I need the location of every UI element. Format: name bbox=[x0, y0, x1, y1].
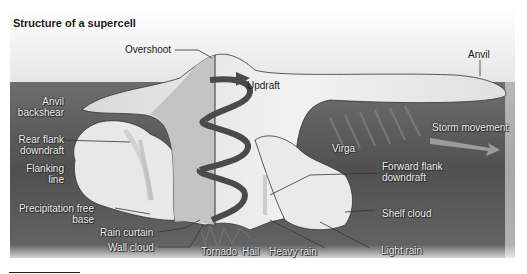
label-anvil: Anvil bbox=[468, 49, 490, 60]
label-storm-movement: Storm movement bbox=[432, 122, 508, 133]
label-shelf-cloud: Shelf cloud bbox=[382, 208, 431, 219]
label-light-rain: Light rain bbox=[381, 245, 422, 256]
label-wall-cloud: Wall cloud bbox=[108, 242, 154, 253]
label-virga: Virga bbox=[332, 143, 355, 154]
label-rear-flank-downdraft: Rear flank downdraft bbox=[10, 134, 64, 156]
label-updraft: Updraft bbox=[247, 80, 280, 91]
diagram-title: Structure of a supercell bbox=[13, 17, 136, 29]
label-flanking-line: Flanking line bbox=[10, 163, 64, 185]
label-forward-flank-downdraft: Forward flank downdraft bbox=[382, 161, 443, 183]
label-tornado: Tornado bbox=[201, 246, 237, 257]
label-heavy-rain: Heavy rain bbox=[269, 246, 317, 257]
diagram-artwork bbox=[0, 0, 527, 274]
label-overshoot: Overshoot bbox=[125, 44, 171, 55]
supercell-diagram: Structure of a supercell Overshoot Anvil… bbox=[0, 0, 527, 274]
label-rain-curtain: Rain curtain bbox=[100, 227, 153, 238]
footnote-rule bbox=[9, 272, 80, 273]
label-anvil-backshear: Anvil backshear bbox=[14, 96, 64, 118]
label-precipitation-free-base: Precipitation free base bbox=[6, 203, 94, 225]
label-hail: Hail bbox=[242, 246, 259, 257]
